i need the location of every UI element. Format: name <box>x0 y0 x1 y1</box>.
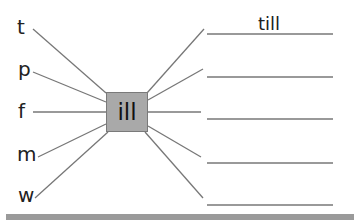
answer-text[interactable]: till <box>258 15 280 33</box>
word-ending-label: ill <box>117 99 136 125</box>
page-edge-shadow <box>6 214 354 220</box>
onset-letter: m <box>17 144 36 164</box>
onset-letter: w <box>18 185 34 205</box>
onset-letter: t <box>17 17 25 37</box>
onset-letter: f <box>18 101 25 121</box>
onset-letter: p <box>18 59 31 79</box>
connector-lines <box>0 0 354 214</box>
word-ending-box: ill <box>106 92 148 132</box>
worksheet-panel: t p f m w ill till <box>0 0 354 214</box>
